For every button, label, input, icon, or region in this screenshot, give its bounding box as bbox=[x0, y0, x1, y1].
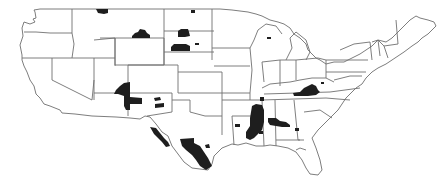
us-map: Contiguous United States county map bbox=[0, 0, 438, 183]
region-south-dakota-small bbox=[195, 43, 199, 45]
region-north-dakota-central bbox=[178, 29, 190, 37]
region-west-virginia-south bbox=[321, 82, 324, 84]
region-louisiana-small bbox=[235, 124, 240, 127]
us-map-svg bbox=[0, 0, 438, 183]
us-outline bbox=[20, 9, 436, 175]
region-georgia-southwest bbox=[295, 128, 299, 131]
region-mississippi-north bbox=[260, 97, 264, 101]
region-north-dakota-north bbox=[191, 10, 195, 13]
region-wisconsin-north bbox=[267, 37, 271, 39]
region-south-dakota-north bbox=[171, 44, 190, 51]
region-mississippi-south bbox=[259, 131, 263, 134]
